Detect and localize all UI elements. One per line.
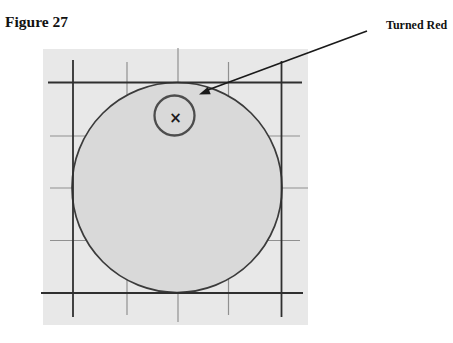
x-marker: × [169,109,182,127]
annotation-label: Turned Red [386,18,448,32]
diagram-canvas: × Figure 27 Turned Red [0,0,453,343]
figure-page: × Figure 27 Turned Red [0,0,453,343]
figure-label: Figure 27 [5,13,68,30]
